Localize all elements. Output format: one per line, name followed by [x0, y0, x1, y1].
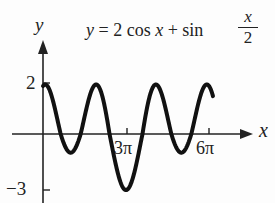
- y-axis-arrow-icon: [38, 40, 48, 54]
- chart-title: y = 2 cos x + sin: [86, 20, 203, 41]
- title-plus: + sin: [168, 20, 204, 40]
- y-axis-label: y: [35, 14, 43, 36]
- title-fraction: x 2: [238, 8, 258, 47]
- chart: y x y = 2 cos x + sin x 2 2 −3 3π 6π: [0, 0, 275, 203]
- y-tick-label-2: 2: [26, 72, 36, 94]
- x-axis-label: x: [259, 119, 268, 142]
- y-tick-label-neg3: −3: [6, 178, 26, 200]
- x-tick-label-3pi: 3π: [114, 138, 132, 159]
- fraction-numerator: x: [238, 8, 258, 26]
- title-lhs: y: [86, 20, 94, 40]
- title-eq: = 2 cos: [99, 20, 151, 40]
- fraction-denominator: 2: [238, 29, 258, 47]
- x-tick-label-6pi: 6π: [196, 138, 214, 159]
- title-var: x: [155, 20, 163, 40]
- x-axis-arrow-icon: [240, 129, 253, 139]
